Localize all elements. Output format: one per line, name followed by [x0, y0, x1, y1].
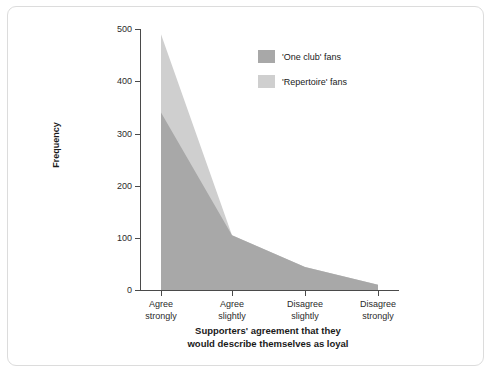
x-tick-label-line-2: strongly [123, 311, 199, 323]
x-axis-title: Supporters' agreement that they would de… [152, 324, 384, 350]
chart-plot-area: 0 100 200 300 400 500 Agree strongly Agr… [0, 0, 494, 377]
legend-swatch-one-club [258, 50, 275, 63]
legend-swatch-repertoire [258, 75, 275, 88]
x-tick-label-line-1: Agree [194, 299, 270, 311]
x-tick-label-line-1: Agree [123, 299, 199, 311]
legend-label-one-club: 'One club' fans [282, 52, 341, 62]
x-tick-label-agree-slightly: Agree slightly [194, 299, 270, 322]
x-tick-label-line-2: strongly [340, 311, 416, 323]
y-tick-label-100: 100 [92, 234, 132, 243]
y-tick-label-400: 400 [92, 77, 132, 86]
y-axis-line [140, 29, 141, 291]
y-tick-200 [135, 186, 140, 187]
legend-item-one-club: 'One club' fans [258, 50, 438, 63]
legend-item-repertoire: 'Repertoire' fans [258, 75, 438, 88]
x-axis-line [140, 290, 399, 291]
x-tick-label-line-1: Disagree [340, 299, 416, 311]
y-tick-500 [135, 29, 140, 30]
chart-legend: 'One club' fans 'Repertoire' fans [258, 50, 438, 100]
y-tick-label-200: 200 [92, 182, 132, 191]
y-tick-100 [135, 238, 140, 239]
x-tick-agree-strongly [161, 291, 162, 296]
x-tick-label-agree-strongly: Agree strongly [123, 299, 199, 322]
legend-label-repertoire: 'Repertoire' fans [282, 77, 347, 87]
y-tick-label-300: 300 [92, 130, 132, 139]
x-tick-label-disagree-strongly: Disagree strongly [340, 299, 416, 322]
x-tick-label-line-2: slightly [267, 311, 343, 323]
x-tick-label-line-2: slightly [194, 311, 270, 323]
x-tick-label-disagree-slightly: Disagree slightly [267, 299, 343, 322]
y-tick-300 [135, 134, 140, 135]
x-tick-disagree-strongly [378, 291, 379, 296]
y-axis-title: Frequency [51, 85, 61, 205]
x-tick-disagree-slightly [305, 291, 306, 296]
x-axis-title-line-1: Supporters' agreement that they [152, 324, 384, 337]
x-tick-agree-slightly [232, 291, 233, 296]
x-tick-label-line-1: Disagree [267, 299, 343, 311]
y-tick-0 [135, 290, 140, 291]
y-tick-400 [135, 81, 140, 82]
x-axis-title-line-2: would describe themselves as loyal [152, 337, 384, 350]
y-tick-label-500: 500 [92, 25, 132, 34]
y-tick-label-0: 0 [92, 286, 132, 295]
